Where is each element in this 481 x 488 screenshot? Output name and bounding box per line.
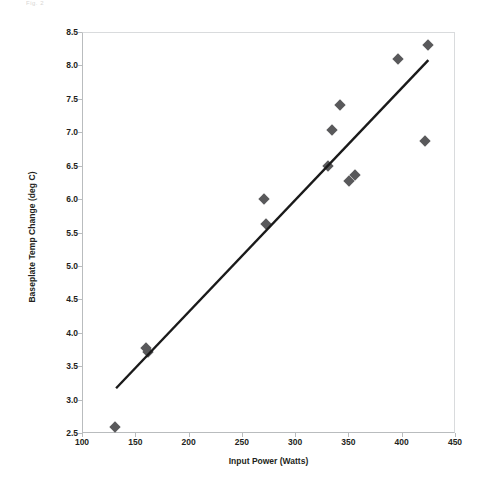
y-axis-tick-mark — [78, 132, 82, 133]
x-axis-tick-label: 100 — [62, 437, 102, 447]
y-axis-tick-label: 8.0 — [44, 60, 78, 70]
y-axis-tick-labels: 2.53.03.54.04.55.05.56.06.57.07.58.08.5 — [42, 32, 78, 433]
y-axis-tick-mark — [78, 366, 82, 367]
plot-area — [82, 32, 455, 433]
y-axis-tick-mark — [78, 65, 82, 66]
x-axis-tick-mark — [242, 433, 243, 437]
data-point-marker — [261, 218, 272, 229]
data-point-marker — [393, 53, 404, 64]
y-axis-tick-label: 7.5 — [44, 94, 78, 104]
x-axis-tick-label: 200 — [169, 437, 209, 447]
data-point-marker — [258, 194, 269, 205]
y-axis-tick-mark — [78, 99, 82, 100]
y-axis-tick-label: 4.0 — [44, 328, 78, 338]
data-point-marker — [142, 347, 153, 358]
x-axis-tick-mark — [82, 433, 83, 437]
y-axis-tick-marks — [78, 32, 83, 433]
y-axis-tick-label: 3.0 — [44, 395, 78, 405]
y-axis-tick-label: 6.0 — [44, 194, 78, 204]
x-axis-title: Input Power (Watts) — [82, 456, 455, 466]
x-axis-tick-label: 250 — [222, 437, 262, 447]
x-axis-tick-mark — [189, 433, 190, 437]
x-axis-tick-marks — [82, 433, 455, 438]
y-axis-title: Baseplate Temp Change (deg C) — [27, 137, 37, 337]
y-axis-tick-mark — [78, 233, 82, 234]
data-point-marker — [419, 135, 430, 146]
y-axis-tick-label: 5.5 — [44, 228, 78, 238]
y-axis-tick-mark — [78, 166, 82, 167]
y-axis-tick-mark — [78, 299, 82, 300]
y-axis-tick-label: 8.5 — [44, 27, 78, 37]
y-axis-tick-label: 7.0 — [44, 127, 78, 137]
x-axis-tick-mark — [295, 433, 296, 437]
x-axis-tick-label: 400 — [382, 437, 422, 447]
x-axis-tick-label: 150 — [115, 437, 155, 447]
y-axis-tick-label: 6.5 — [44, 161, 78, 171]
data-point-marker — [109, 421, 120, 432]
y-axis-tick-label: 4.5 — [44, 294, 78, 304]
x-axis-tick-labels: 100150200250300350400450 — [82, 437, 455, 451]
figure-root: Fig. 2 Baseplate Temp Change (deg C) 2.5… — [0, 0, 481, 488]
x-axis-tick-mark — [135, 433, 136, 437]
x-axis-tick-label: 450 — [435, 437, 475, 447]
data-point-marker — [423, 39, 434, 50]
data-point-marker — [322, 160, 333, 171]
data-point-marker — [327, 124, 338, 135]
y-axis-tick-mark — [78, 400, 82, 401]
y-axis-tick-mark — [78, 32, 82, 33]
figure-number-artifact: Fig. 2 — [26, 0, 60, 7]
x-axis-tick-mark — [348, 433, 349, 437]
y-axis-tick-mark — [78, 333, 82, 334]
y-axis-tick-label: 3.5 — [44, 361, 78, 371]
data-point-marker — [334, 100, 345, 111]
x-axis-tick-mark — [455, 433, 456, 437]
x-axis-tick-label: 350 — [328, 437, 368, 447]
y-axis-tick-label: 5.0 — [44, 261, 78, 271]
x-axis-tick-label: 300 — [275, 437, 315, 447]
y-axis-tick-mark — [78, 266, 82, 267]
x-axis-tick-mark — [402, 433, 403, 437]
y-axis-tick-mark — [78, 199, 82, 200]
